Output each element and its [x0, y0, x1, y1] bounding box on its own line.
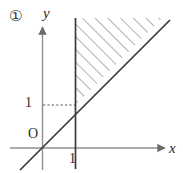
origin-label: O	[28, 127, 38, 141]
y-tick-label-1: 1	[25, 96, 32, 110]
item-number-label: ①	[9, 9, 22, 24]
x-axis-label: x	[169, 141, 176, 156]
figure-container: ① y x O 1 1	[0, 0, 183, 173]
y-axis-label: y	[43, 6, 50, 21]
hatched-region	[76, 18, 163, 105]
x-tick-label-1: 1	[69, 152, 76, 166]
coordinate-plot	[0, 0, 183, 173]
